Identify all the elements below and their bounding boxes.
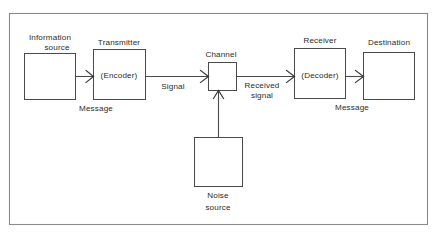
noise-source-label-line1: Noise <box>207 191 229 200</box>
information-source-box <box>25 54 76 100</box>
information-source-label-line2: source <box>44 43 70 52</box>
noise-source-label-line2: source <box>205 203 231 212</box>
receiver-label: Receiver <box>303 36 336 45</box>
channel-box <box>209 63 237 91</box>
received-signal-label-line2: signal <box>251 91 273 100</box>
transmitter-label: Transmitter <box>98 38 140 47</box>
diagram-canvas: Information source Transmitter (Encoder)… <box>0 0 437 239</box>
message-left-label: Message <box>79 104 113 113</box>
destination-box <box>364 53 415 100</box>
transmitter-inner-label: (Encoder) <box>101 71 138 80</box>
signal-label: Signal <box>161 82 184 91</box>
channel-label: Channel <box>205 50 236 59</box>
message-right-label: Message <box>335 103 369 112</box>
receiver-inner-label: (Decoder) <box>301 71 338 80</box>
destination-label: Destination <box>368 38 410 47</box>
received-signal-label-line1: Received <box>245 81 280 90</box>
noise-source-box <box>195 138 243 187</box>
information-source-label-line1: Information <box>29 33 71 42</box>
